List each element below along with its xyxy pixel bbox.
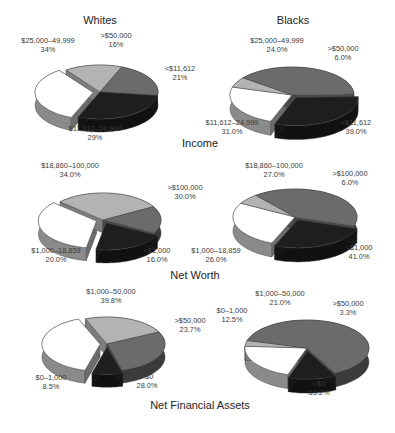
slice-label: <$063.2% xyxy=(279,379,359,397)
slice-category: >$50,000 xyxy=(308,299,388,308)
slice-percent: 20.0% xyxy=(16,255,96,264)
slice-percent: 31.0% xyxy=(192,127,272,136)
slice-label: >$50,0006.0% xyxy=(303,44,383,62)
slice-label: $1,000–18,85920.0% xyxy=(16,246,96,264)
slice-label: >$50,0003.3% xyxy=(308,299,388,317)
slice-percent: 3.3% xyxy=(308,308,388,317)
slice-percent: 6.0% xyxy=(310,178,390,187)
slice-category: $0–1,000 xyxy=(11,373,91,382)
slice-category: $1,000–18,859 xyxy=(176,246,256,255)
slice-label: $18,860–100,00034.0% xyxy=(30,161,110,179)
column-title-blacks: Blacks xyxy=(263,14,323,26)
slice-percent: 39.8% xyxy=(71,296,151,305)
slice-percent: 26.0% xyxy=(176,255,256,264)
slice-category: $1,000–18,859 xyxy=(16,246,96,255)
slice-category: >$50,000 xyxy=(303,44,383,53)
slice-percent: 27.0% xyxy=(234,170,314,179)
slice-category: $11,612–24,999 xyxy=(192,118,272,127)
slice-category: <$1,000 xyxy=(319,243,395,252)
slice-percent: 6.0% xyxy=(303,53,383,62)
slice-label: $18,860–100,00027.0% xyxy=(234,161,314,179)
slice-category: <$11,612 xyxy=(316,118,395,127)
column-title-whites: Whites xyxy=(70,14,130,26)
slice-percent: 28.0% xyxy=(107,381,187,390)
slice-percent: 8.5% xyxy=(11,382,91,391)
chart-figure: Whites Blacks Income Net Worth Net Finan… xyxy=(0,0,395,433)
slice-percent: 29% xyxy=(55,133,135,142)
slice-label: <$028.0% xyxy=(107,372,187,390)
slice-percent: 63.2% xyxy=(279,388,359,397)
row-title-net-financial-assets: Net Financial Assets xyxy=(130,399,270,411)
slice-percent: 23.7% xyxy=(150,325,230,334)
slice-label: $0–1,00012.5% xyxy=(192,306,272,324)
slice-label: <$11,61239.0% xyxy=(316,118,395,136)
slice-category: >$100,000 xyxy=(310,169,390,178)
slice-category: >$50,000 xyxy=(76,31,156,40)
slice-label: $1,000–50,00039.8% xyxy=(71,287,151,305)
slice-label: $1,000–18,85926.0% xyxy=(176,246,256,264)
slice-category: $18,860–100,000 xyxy=(234,161,314,170)
slice-label: <$1,00041.0% xyxy=(319,243,395,261)
slice-label: $0–1,0008.5% xyxy=(11,373,91,391)
slice-percent: 16% xyxy=(76,40,156,49)
slice-category: $1,000–50,000 xyxy=(240,289,320,298)
slice-label: >$100,00030.0% xyxy=(145,183,225,201)
slice-category: $1,000–50,000 xyxy=(71,287,151,296)
row-title-income: Income xyxy=(160,137,240,149)
row-title-net-worth: Net Worth xyxy=(150,269,240,281)
slice-percent: 39.0% xyxy=(316,127,395,136)
slice-label: >$100,0006.0% xyxy=(310,169,390,187)
slice-percent: 34.0% xyxy=(30,170,110,179)
slice-category: >$100,000 xyxy=(145,183,225,192)
slice-label: >$50,00016% xyxy=(76,31,156,49)
slice-category: $0–1,000 xyxy=(192,306,272,315)
slice-percent: 12.5% xyxy=(192,315,272,324)
slice-percent: 30.0% xyxy=(145,192,225,201)
slice-category: $11,612–24,999 xyxy=(55,124,135,133)
slice-category: <$11,612 xyxy=(140,64,220,73)
slice-label: $11,612–24,99929% xyxy=(55,124,135,142)
slice-category: <$0 xyxy=(279,379,359,388)
slice-label: <$11,61221% xyxy=(140,64,220,82)
slice-percent: 41.0% xyxy=(319,252,395,261)
slice-category: $18,860–100,000 xyxy=(30,161,110,170)
slice-label: $11,612–24,99931.0% xyxy=(192,118,272,136)
slice-percent: 21% xyxy=(140,73,220,82)
slice-category: <$0 xyxy=(107,372,187,381)
